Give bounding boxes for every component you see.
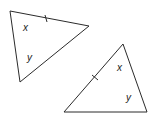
triangle-2-angle-y-label: y [125,92,132,103]
congruent-triangles-diagram: x y x y [0,0,156,117]
triangle-1-outline [10,11,89,82]
triangle-1-angle-x-label: x [22,22,29,33]
triangle-1-angle-y-label: y [26,52,33,63]
triangle-2-angle-x-label: x [116,62,123,73]
triangle-1: x y [10,11,89,82]
triangle-2: x y [64,44,147,112]
triangle-2-outline [64,44,147,112]
triangle-1-tick-mark [45,15,47,22]
